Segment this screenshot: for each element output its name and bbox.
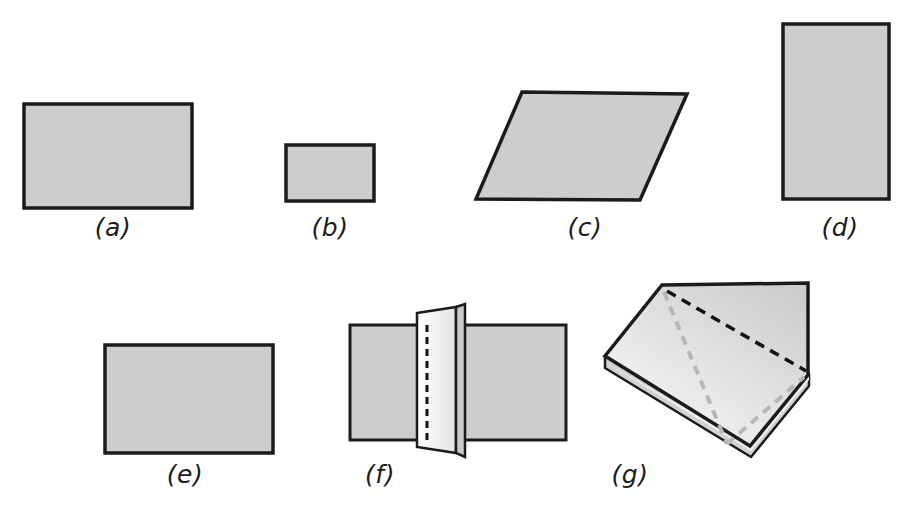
panel-label-c: (c) (568, 213, 603, 242)
shape-f-right-panel (455, 325, 566, 440)
shape-f-flap-edge (456, 304, 465, 457)
shape-f-flap-face (417, 307, 456, 453)
shape-a-rectangle (24, 104, 192, 208)
shape-d-rectangle (783, 24, 889, 199)
panel-label-g: (g) (612, 460, 649, 489)
figure-container: (a) (b) (c) (d) (e) (f) (g) (0, 0, 919, 518)
shape-c-parallelogram (476, 92, 687, 200)
panel-label-a: (a) (95, 213, 131, 242)
panel-label-e: (e) (167, 460, 203, 489)
shape-f-folded-sheet (350, 304, 566, 457)
shape-g-folded-sheet (605, 283, 809, 457)
shape-c-body (476, 92, 687, 200)
shape-a-body (24, 104, 192, 208)
shape-b-rectangle (286, 145, 374, 201)
shape-b-body (286, 145, 374, 201)
panel-label-d: (d) (822, 213, 859, 242)
shape-d-body (783, 24, 889, 199)
shape-e-body (105, 345, 273, 453)
panel-label-b: (b) (312, 213, 349, 242)
panel-label-f: (f) (365, 460, 395, 489)
figure-diagram (0, 0, 919, 518)
shape-e-rectangle (105, 345, 273, 453)
